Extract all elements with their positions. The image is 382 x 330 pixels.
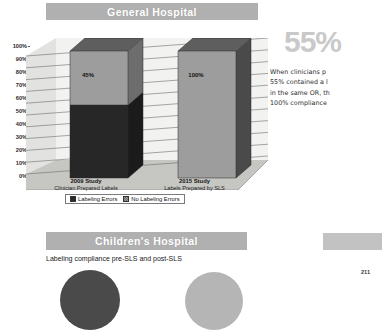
- legend-label-labeling-errors: Labeling Errors: [78, 196, 117, 202]
- callout-body-line-3: in the same OR, th: [270, 88, 382, 98]
- x-axis-category-2009: 2009 Study Clinician Prepared Labels: [36, 178, 136, 192]
- x-axis-category-2015-title: 2015 Study: [142, 178, 247, 185]
- pre-sls-circle: [60, 270, 120, 330]
- x-axis-category-2015: 2015 Study Labels Prepared by SLS: [142, 178, 247, 192]
- childrens-hospital-title: Children's Hospital: [95, 235, 198, 247]
- callout-column: 55% When clinicians p 55% contained a l …: [270, 30, 382, 109]
- callout-body-line-1: When clinicians p: [270, 67, 382, 77]
- right-column-header-bar: [323, 233, 382, 250]
- general-hospital-header: General Hospital: [46, 3, 258, 20]
- x-axis-category-2015-subtitle: Labels Prepared by SLS: [142, 185, 247, 192]
- childrens-hospital-circles: [40, 270, 270, 285]
- post-sls-circle: [185, 272, 243, 330]
- x-axis-category-2009-title: 2009 Study: [36, 178, 136, 185]
- legend-swatch-hatched-icon: [123, 196, 129, 202]
- chart-legend: Labeling Errors No Labeling Errors: [65, 194, 185, 204]
- general-hospital-title: General Hospital: [107, 6, 197, 18]
- callout-body: When clinicians p 55% contained a l in t…: [270, 67, 382, 109]
- legend-label-no-labeling-errors: No Labeling Errors: [131, 196, 179, 202]
- callout-body-line-2: 55% contained a l: [270, 77, 382, 87]
- childrens-hospital-header: Children's Hospital: [46, 232, 247, 250]
- plot-area-3d: [26, 38, 268, 190]
- childrens-hospital-subtitle: Labeling compliance pre-SLS and post-SLS: [46, 255, 182, 262]
- bar-value-label-2009: 45%: [68, 72, 108, 78]
- general-hospital-bar-chart: 100% 90% 80% 70% 60% 50% 40% 30% 20% 10%…: [0, 24, 268, 189]
- callout-body-line-4: 100% compliance: [270, 98, 382, 108]
- page-number: 211: [361, 269, 370, 275]
- legend-swatch-dark-icon: [70, 196, 76, 202]
- legend-item-labeling-errors: Labeling Errors: [70, 196, 117, 202]
- x-axis-category-2009-subtitle: Clinician Prepared Labels: [36, 185, 136, 192]
- y-tick-100: 100%: [13, 44, 27, 50]
- callout-stat: 55%: [284, 30, 382, 54]
- legend-item-no-labeling-errors: No Labeling Errors: [123, 196, 179, 202]
- bar-value-label-2015: 100%: [176, 72, 216, 78]
